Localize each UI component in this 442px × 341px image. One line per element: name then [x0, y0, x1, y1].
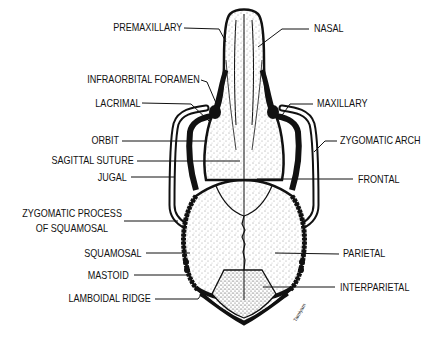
label-maxillary: MAXILLARY	[317, 98, 368, 109]
label-parietal: PARIETAL	[343, 248, 385, 259]
artist-signature: Tamiyam	[292, 302, 307, 322]
label-interparietal: INTERPARIETAL	[340, 282, 409, 293]
label-jugal: JUGAL	[98, 172, 127, 183]
label-nasal: NASAL	[314, 23, 344, 34]
label-mastoid: MASTOID	[88, 270, 129, 281]
label-lacrimal: LACRIMAL	[96, 98, 141, 109]
label-frontal: FRONTAL	[358, 174, 399, 185]
label-infraorbital-foramen: INFRAORBITAL FORAMEN	[88, 74, 200, 85]
label-premaxillary: PREMAXILLARY	[113, 22, 182, 33]
label-sagittal-suture: SAGITTAL SUTURE	[52, 155, 134, 166]
label-lamboidal-ridge: LAMBOIDAL RIDGE	[69, 293, 151, 304]
label-squamosal: SQUAMOSAL	[85, 248, 142, 259]
label-zygomatic-process-line2: OF SQUAMOSAL	[36, 223, 108, 234]
label-zygomatic-process-line1: ZYGOMATIC PROCESS	[22, 208, 122, 219]
label-orbit: ORBIT	[91, 135, 119, 146]
label-zygomatic-arch: ZYGOMATIC ARCH	[340, 135, 421, 146]
skull-outline	[172, 10, 316, 325]
